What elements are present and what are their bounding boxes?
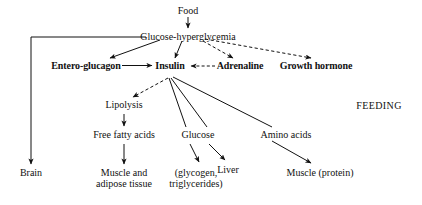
node-food: Food [178,5,199,16]
node-glycogen-triglycerides: (glycogen, triglycerides) [169,167,222,189]
edge-glucose-to-glycogen-triglycerides [190,144,199,162]
node-amino-acids: Amino acids [261,129,312,140]
edge-insulin-to-glucose [169,78,186,127]
node-glucose-hyperglycemia: Glucose-hyperglycemia [140,31,235,42]
node-growth-hormone: Growth hormone [280,60,353,71]
edge-glucose-to-entero-glucagon [110,40,160,58]
muscle-adipose-line-2: adipose tissue [96,178,152,189]
node-glucose: Glucose [182,129,215,140]
muscle-adipose-line-1: Muscle and [101,167,147,178]
edge-glucose-to-insulin [175,41,182,58]
node-free-fatty-acids: Free fatty acids [93,129,155,140]
node-feeding-label: FEEDING [356,100,402,111]
edge-insulin-to-amino-acids [173,77,272,127]
node-insulin: Insulin [155,60,184,71]
glycogen-line-2: triglycerides) [169,178,222,189]
edge-amino-acids-to-muscle-protein [272,141,311,163]
node-muscle-and-adipose-tissue: Muscle and adipose tissue [96,167,152,189]
node-muscle-protein: Muscle (protein) [287,167,354,178]
node-adrenaline: Adrenaline [217,60,264,71]
node-brain: Brain [20,167,42,178]
edge-glucose-to-liver [209,144,225,160]
node-entero-glucagon: Entero-glucagon [51,60,120,71]
glycogen-line-1: (glycogen, [175,167,218,178]
edge-insulin-to-lipolysis [133,78,168,97]
feeding-metabolism-diagram: Food Glucose-hyperglycemia Entero-glucag… [0,0,422,205]
node-lipolysis: Lipolysis [105,99,142,110]
